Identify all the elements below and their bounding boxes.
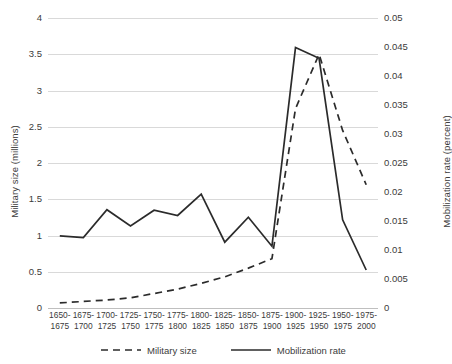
gridline bbox=[48, 308, 378, 309]
y-axis-right-tick-label: 0.025 bbox=[384, 158, 408, 168]
y-axis-right-tick-label: 0.005 bbox=[384, 274, 408, 284]
y-axis-right-tick-label: 0.015 bbox=[384, 216, 408, 226]
x-axis-tick-label: 1800-1825 bbox=[189, 310, 213, 338]
y-axis-left-tick-label: 2 bbox=[37, 158, 42, 168]
y-axis-left-title: Military size (millions) bbox=[9, 102, 20, 242]
legend-label: Military size bbox=[147, 345, 197, 356]
x-axis-tick-label: 1925-1950 bbox=[307, 310, 331, 338]
legend-label: Mobilization rate bbox=[277, 345, 346, 356]
x-axis-tick-label: 1900-1925 bbox=[284, 310, 308, 338]
series-line-mobilization-rate bbox=[60, 48, 366, 270]
y-axis-right-tick-label: 0.01 bbox=[384, 245, 403, 255]
x-axis-tick-label: 1700-1725 bbox=[95, 310, 119, 338]
y-axis-left-tick-label: 0 bbox=[37, 303, 42, 313]
y-axis-left-tick-label: 0.5 bbox=[29, 267, 42, 277]
x-axis-tick-label: 1725-1750 bbox=[119, 310, 143, 338]
y-axis-right-tick-label: 0.02 bbox=[384, 187, 403, 197]
chart-legend: Military sizeMobilization rate bbox=[0, 341, 447, 359]
y-axis-left-tick-label: 3 bbox=[37, 86, 42, 96]
y-axis-right-tick-label: 0.04 bbox=[384, 71, 403, 81]
series-layer bbox=[48, 18, 378, 308]
x-axis-tick-label: 1775-1800 bbox=[166, 310, 190, 338]
legend-dashed-line-icon bbox=[101, 345, 141, 355]
x-axis-tick-label: 1650-1675 bbox=[48, 310, 72, 338]
x-axis-labels: 1650-16751675-17001700-17251725-17501750… bbox=[48, 310, 378, 338]
plot-area: 00.511.522.533.54 00.0050.010.0150.020.0… bbox=[48, 18, 378, 308]
legend-item[interactable]: Military size bbox=[101, 345, 197, 356]
y-axis-right-tick-label: 0.05 bbox=[384, 13, 403, 23]
y-axis-right-tick-label: 0 bbox=[384, 303, 389, 313]
series-line-military-size bbox=[60, 54, 366, 303]
y-axis-left-tick-label: 3.5 bbox=[29, 50, 42, 60]
y-axis-left-tick-label: 1.5 bbox=[29, 195, 42, 205]
y-axis-right-tick-label: 0.045 bbox=[384, 42, 408, 52]
y-axis-left-tick-label: 2.5 bbox=[29, 122, 42, 132]
x-axis-tick-label: 1850-1875 bbox=[237, 310, 261, 338]
x-axis-tick-label: 1825-1850 bbox=[213, 310, 237, 338]
legend-solid-line-icon bbox=[231, 345, 271, 355]
x-axis-tick-label: 1675-1700 bbox=[72, 310, 96, 338]
x-axis-tick-label: 1875-1900 bbox=[260, 310, 284, 338]
y-axis-right-title: Mobilization rate (percent) bbox=[441, 92, 452, 252]
legend-item[interactable]: Mobilization rate bbox=[231, 345, 346, 356]
y-axis-right-tick-label: 0.035 bbox=[384, 100, 408, 110]
y-axis-right-tick-label: 0.03 bbox=[384, 129, 403, 139]
x-axis-tick-label: 1950-1975 bbox=[331, 310, 355, 338]
y-axis-left-tick-label: 1 bbox=[37, 231, 42, 241]
x-axis-tick-label: 1975-2000 bbox=[355, 310, 379, 338]
y-axis-left-tick-label: 4 bbox=[37, 13, 42, 23]
x-axis-tick-label: 1750-1775 bbox=[142, 310, 166, 338]
